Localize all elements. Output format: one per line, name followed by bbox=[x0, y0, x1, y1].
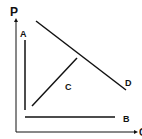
price-quantity-diagram: P Q A B C D bbox=[0, 0, 142, 139]
x-axis-label: Q bbox=[139, 127, 142, 138]
line-d-label: D bbox=[125, 78, 132, 88]
line-a-label: A bbox=[20, 29, 27, 39]
y-axis-label: P bbox=[10, 5, 18, 19]
line-b-label: B bbox=[123, 114, 130, 124]
line-c-label: C bbox=[65, 82, 72, 92]
line-d bbox=[36, 21, 126, 90]
